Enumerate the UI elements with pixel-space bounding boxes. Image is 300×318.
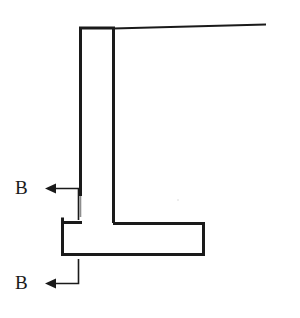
caption-strip: [0, 304, 300, 318]
retaining-wall-section-drawing: [0, 0, 300, 318]
section-arrow-b-lower-leader: [53, 259, 79, 284]
wall-outline-group: [61, 25, 266, 255]
section-label-b-upper: B: [15, 178, 28, 197]
section-arrow-b-lower-head: [45, 279, 56, 289]
section-label-b-lower: B: [15, 273, 28, 292]
scan-artifact-speck: [177, 199, 179, 201]
figure-canvas: B B: [0, 0, 300, 318]
section-arrow-b-upper-leader: [53, 189, 79, 221]
footing-slab-outline: [63, 218, 204, 255]
section-arrow-b-upper-head: [45, 184, 56, 194]
top-backfill-surface-line: [113, 25, 266, 29]
